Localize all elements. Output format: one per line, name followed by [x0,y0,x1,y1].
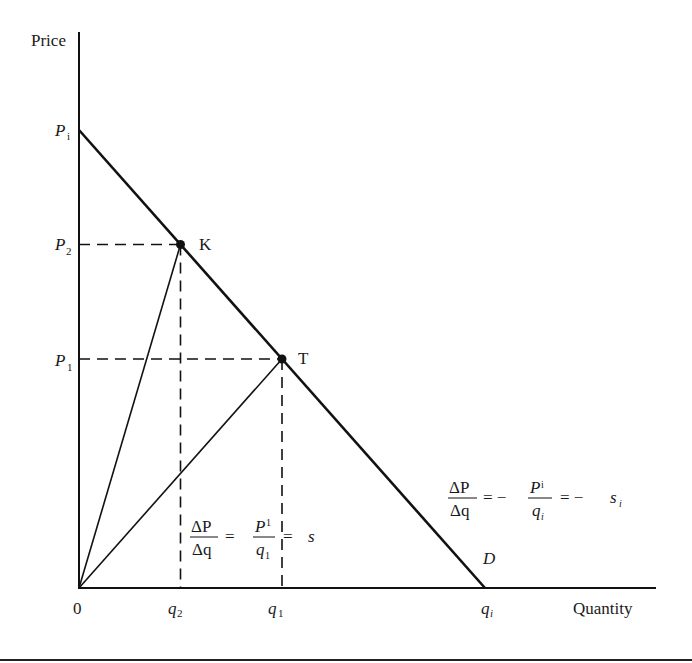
tick-label-q1: q 1 [268,599,284,619]
point-k-label: K [199,235,212,254]
svg-text:1: 1 [266,517,271,528]
point-t [278,355,287,364]
svg-text:i: i [490,607,493,619]
tick-label-p1: P 1 [54,351,73,373]
svg-text:q: q [532,501,541,520]
point-k [176,240,185,249]
svg-text:i: i [67,130,70,142]
svg-text:q: q [168,599,177,618]
svg-text:=: = [283,527,293,546]
svg-text:s: s [610,488,617,507]
svg-text:q: q [481,599,490,618]
ray-slope-annotation: ΔP Δq = P 1 q 1 = s [190,517,315,561]
origin-label: 0 [73,599,82,618]
svg-text:1: 1 [278,607,284,619]
demand-diagram: Price Quantity 0 K T D P i P 2 P 1 q 2 q… [0,0,692,663]
svg-text:= −: = − [560,488,583,507]
svg-text:P: P [254,517,265,536]
tick-label-pi: P i [54,121,70,142]
svg-text:P: P [54,121,65,140]
svg-text:i: i [541,479,544,490]
ray-origin-to-k [79,245,181,589]
point-t-label: T [298,349,309,368]
svg-text:s: s [308,527,315,546]
svg-text:q: q [256,540,265,559]
svg-text:2: 2 [66,245,72,257]
svg-text:P: P [529,478,540,497]
svg-text:i: i [619,498,622,509]
svg-text:i: i [541,511,544,522]
svg-text:ΔP: ΔP [449,478,469,497]
svg-text:= −: = − [483,488,506,507]
tick-label-qi: q i [481,599,493,619]
svg-text:2: 2 [177,607,183,619]
tick-label-p2: P 2 [54,235,72,257]
demand-slope-annotation: ΔP Δq = − P i q i = − s i [448,478,622,522]
svg-text:=: = [225,527,235,546]
demand-label: D [482,549,496,568]
svg-text:P: P [54,351,65,370]
svg-text:P: P [54,235,65,254]
svg-text:1: 1 [67,361,73,373]
x-axis-title: Quantity [573,599,633,618]
svg-text:Δq: Δq [192,540,212,559]
tick-label-q2: q 2 [168,599,183,619]
svg-text:Δq: Δq [450,501,470,520]
y-axis-title: Price [31,31,66,50]
svg-text:q: q [268,599,277,618]
svg-text:ΔP: ΔP [191,517,211,536]
svg-text:1: 1 [265,550,270,561]
